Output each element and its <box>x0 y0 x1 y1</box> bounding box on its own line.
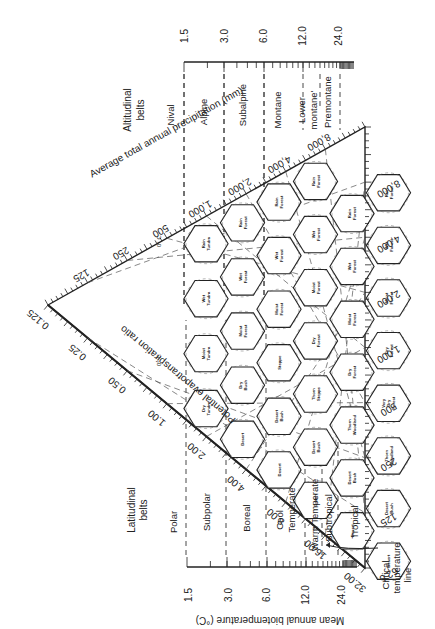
edge-tick <box>259 182 261 185</box>
edge-tick <box>219 449 222 452</box>
edge-tick <box>302 519 306 524</box>
edge-tick <box>84 338 88 343</box>
edge-tick <box>309 154 311 157</box>
edge-tick <box>163 404 167 409</box>
life-zone-label-line: Tundra <box>206 346 211 361</box>
edge-tick <box>110 265 112 268</box>
life-zone-label: DesertBush <box>311 440 321 454</box>
edge-tick <box>362 122 365 127</box>
latitudinal-header-1: Latitudinal <box>126 487 137 533</box>
edge-tick <box>130 375 133 378</box>
edge-tick <box>150 243 152 246</box>
edge-tick <box>115 363 118 366</box>
edge-tick <box>263 177 266 182</box>
pet-tick-label: 0.25 <box>66 342 88 363</box>
temp-axis-title: Mean annual biotemperature (°C) <box>196 615 345 626</box>
edge-tick <box>183 420 187 425</box>
life-zone-label-line: Woodland <box>352 415 357 436</box>
life-zone-label-line: Tundra <box>206 291 211 306</box>
edge-tick <box>140 383 143 386</box>
edge-tick <box>219 204 221 207</box>
temp-axis-top-label-3: 6.0 <box>258 29 269 43</box>
edge-tick <box>229 199 231 202</box>
edge-tick <box>65 289 68 294</box>
edge-tick <box>268 490 271 493</box>
edge-tick <box>45 300 48 305</box>
edge-tick <box>120 367 123 370</box>
temp-axis-top-label-4: 12.0 <box>297 26 308 46</box>
pet-tick-label: 4.00 <box>225 473 247 494</box>
edge-tick <box>298 515 301 518</box>
edge-tick <box>96 274 98 277</box>
life-zone-label: Desert <box>240 432 245 446</box>
edge-tick <box>135 251 137 254</box>
edge-tick <box>149 391 152 394</box>
edge-tick <box>159 400 162 403</box>
life-zone-label: DesertBush <box>274 409 284 423</box>
life-zone-label-line: Bush <box>316 442 321 453</box>
holdridge-life-zones-diagram: DryTundraMoistTundraWetTundraRainTundraD… <box>0 0 435 629</box>
life-zone-label-line: Forest <box>316 334 321 347</box>
life-zone-label-line: Steppe <box>316 386 321 401</box>
edge-tick <box>303 155 306 160</box>
temp-axis-bottom-label-3: 6.0 <box>261 588 272 602</box>
edge-tick <box>64 321 68 326</box>
edge-tick <box>144 244 147 249</box>
edge-tick <box>341 552 345 557</box>
temp-axis-bottom-label-5: 24.0 <box>336 585 347 605</box>
altitudinal-belt-lower-montane-1: Lower <box>296 97 307 123</box>
temp-axis-top-label-2: 3.0 <box>219 29 230 43</box>
life-zone-label: MoistTundra <box>201 346 211 361</box>
edge-tick <box>104 266 107 271</box>
edge-tick <box>353 129 355 132</box>
critical-line-label-3: line <box>402 568 413 583</box>
edge-tick <box>80 334 83 337</box>
edge-tick <box>143 387 147 392</box>
edge-tick <box>239 465 242 468</box>
edge-tick <box>348 132 350 135</box>
life-zone-label: MoistForest <box>238 324 248 337</box>
life-zone-label-line: Forest <box>279 249 284 262</box>
critical-line-arrowhead <box>326 542 330 548</box>
life-zone-label: MoistForest <box>274 302 284 315</box>
edge-tick <box>361 568 365 573</box>
edge-tick <box>135 379 138 382</box>
life-zone-label-line: Desert <box>277 463 282 477</box>
edge-tick <box>51 299 53 302</box>
edge-tick <box>123 371 127 376</box>
edge-tick <box>154 395 157 398</box>
edge-tick <box>190 221 192 224</box>
edge-tick <box>175 229 177 232</box>
edge-tick <box>214 445 217 448</box>
life-zone-label-line: Forest <box>316 174 321 187</box>
hexagon-grid: DryTundraMoistTundraWetTundraRainTundraD… <box>184 161 411 581</box>
edge-tick <box>299 160 301 163</box>
life-zone-label-line: Forest <box>243 216 248 229</box>
edge-tick <box>169 408 172 411</box>
edge-tick <box>269 176 271 179</box>
life-zone-label-line: Forest <box>243 270 248 283</box>
life-zone-label: ThornSteppe <box>311 386 321 401</box>
edge-tick <box>358 126 360 129</box>
edge-tick <box>140 249 142 252</box>
life-zone-label-line: Steppe <box>277 355 282 370</box>
edge-tick <box>70 326 73 329</box>
latitudinal-belt-subpolar: Subpolar <box>201 493 212 531</box>
edge-tick <box>253 478 256 481</box>
temp-axis-top-label-5: 24.0 <box>333 26 344 46</box>
pet-tick-label: 2.00 <box>185 440 207 461</box>
edge-tick <box>100 350 103 353</box>
altitudinal-belt-montane: Montane <box>272 92 283 129</box>
edge-tick <box>348 556 351 559</box>
edge-tick <box>249 473 252 476</box>
edge-tick <box>199 432 202 435</box>
edge-tick <box>194 428 197 431</box>
life-zone-label: Desert <box>277 463 282 477</box>
pet-tick-label: 1.00 <box>145 408 167 429</box>
edge-tick <box>273 494 276 497</box>
altitudinal-temperature-scale <box>184 62 354 72</box>
edge-tick <box>258 482 261 485</box>
life-zone-label-line: Forest <box>352 259 357 272</box>
edge-tick <box>95 346 98 349</box>
edge-tick <box>180 226 182 229</box>
